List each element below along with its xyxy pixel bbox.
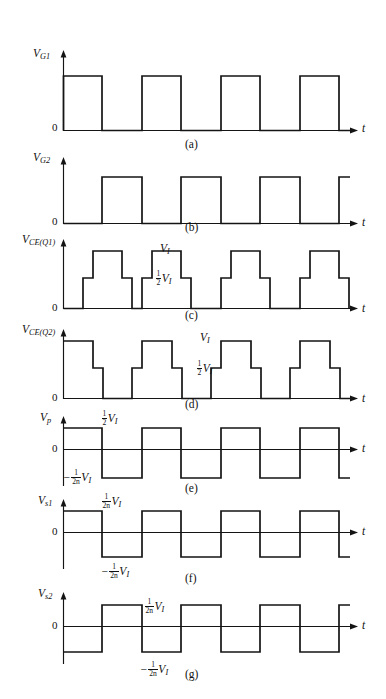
panel-f-xaxis-arrow xyxy=(350,530,358,536)
panel-e-level-pos-label: 12VI xyxy=(101,410,118,426)
panel-b-yaxis-arrow xyxy=(61,157,67,165)
panel-c-xaxis-arrow xyxy=(350,306,358,312)
panel-d-level-vi-label: VI xyxy=(200,332,210,345)
panel-f-yaxis-arrow xyxy=(61,499,67,507)
panel-f-level-pos-label: 12nVI xyxy=(101,493,121,509)
panel-c-yaxis-arrow xyxy=(61,239,67,247)
panel-a-zero-label: 0 xyxy=(52,122,58,133)
panel-e-waveform xyxy=(64,428,351,478)
panel-g-waveform xyxy=(64,605,351,652)
panel-e-zero-label: 0 xyxy=(52,443,58,454)
panel-c-y-label: VCE(Q1) xyxy=(22,234,55,247)
panel-g-y-label: Vs2 xyxy=(38,588,52,601)
panel-g-sublabel: (g) xyxy=(185,669,198,681)
panel-a-y-label: VG1 xyxy=(33,48,50,61)
panel-b-y-label: VG2 xyxy=(33,152,50,165)
panel-e-yaxis-arrow xyxy=(61,416,67,424)
panel-f-t-label: t xyxy=(362,526,365,538)
panel-f-waveform xyxy=(64,511,351,557)
panel-g-xaxis-arrow xyxy=(350,624,358,630)
panel-f-zero-label: 0 xyxy=(52,526,58,537)
panel-a-t-label: t xyxy=(362,123,365,135)
panel-d-y-label: VCE(Q2) xyxy=(22,324,55,337)
panel-b-axes xyxy=(64,161,353,224)
panel-g-level-neg-label: −12nVI xyxy=(140,661,168,677)
panel-c-t-label: t xyxy=(362,303,365,315)
panel-a-xaxis-arrow xyxy=(350,128,358,134)
panel-c-level-vi-label: VI xyxy=(160,243,170,256)
panel-d-yaxis-arrow xyxy=(61,329,67,337)
panel-d-xaxis-arrow xyxy=(350,396,358,402)
panel-d-zero-label: 0 xyxy=(52,392,58,403)
panel-b-zero-label: 0 xyxy=(52,216,58,227)
panel-c-axes xyxy=(64,243,353,309)
panel-b-sublabel: (b) xyxy=(185,222,198,234)
panel-c-zero-label: 0 xyxy=(52,302,58,313)
panel-e-xaxis-arrow xyxy=(350,447,358,453)
panel-e-y-label: Vp xyxy=(40,412,51,425)
panel-c-level-half-vi-label: 12VI xyxy=(155,270,172,286)
panel-e-sublabel: (e) xyxy=(185,483,198,495)
panel-e-t-label: t xyxy=(362,443,365,455)
panel-b-xaxis-arrow xyxy=(350,221,358,227)
panel-c-sublabel: (c) xyxy=(185,310,198,322)
panel-g-t-label: t xyxy=(362,620,365,632)
panel-f-y-label: Vs1 xyxy=(38,495,52,508)
panel-f-level-neg-label: −12nVI xyxy=(101,563,129,579)
panel-g-level-pos-label: 12nVI xyxy=(144,598,164,614)
panel-b-t-label: t xyxy=(362,217,365,229)
panel-a-sublabel: (a) xyxy=(185,139,198,151)
panel-b-waveform xyxy=(64,177,351,224)
panel-d-sublabel: (d) xyxy=(185,399,198,411)
panel-e-level-neg-label: −12nVI xyxy=(63,469,91,485)
panel-a-axes xyxy=(64,54,353,131)
panel-c-waveform xyxy=(64,251,350,309)
panel-a-waveform xyxy=(64,76,351,131)
panel-d-level-half-vi-label: 12VI xyxy=(196,360,213,376)
panel-a-yaxis-arrow xyxy=(61,50,67,58)
panel-g-yaxis-arrow xyxy=(61,592,67,600)
panel-g-zero-label: 0 xyxy=(52,620,58,631)
figure-root: VG1 0 t (a) VG2 0 t (b) VCE(Q1) 0 t VI 1… xyxy=(0,0,386,699)
panel-f-sublabel: (f) xyxy=(185,573,197,585)
panel-d-t-label: t xyxy=(362,393,365,405)
